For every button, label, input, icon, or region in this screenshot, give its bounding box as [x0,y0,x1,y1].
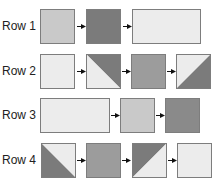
arrow-icon [167,69,176,74]
arrow-icon [156,113,165,118]
arrow-icon [122,69,131,74]
row-4-label: Row 4 [2,153,36,167]
row-1-block-2-square [86,9,121,44]
row-2-block-1-square [40,54,75,89]
arrow-icon [77,24,86,29]
row-4-block-4-square [177,143,212,178]
row-1-block-1-square [40,9,75,44]
arrow-icon [77,158,86,163]
row-4-block-2-square [86,143,121,178]
arrow-icon [168,158,177,163]
row-3-block-3-square [165,98,200,133]
row-2-label: Row 2 [2,64,36,78]
row-1-label: Row 1 [2,19,36,33]
arrow-icon [123,24,132,29]
row-3-label: Row 3 [2,108,36,122]
row-3-block-2-square [120,98,155,133]
row-4-block-3-half-square-triangle [132,143,167,178]
row-2-block-2-half-square-triangle [86,54,121,89]
arrow-icon [111,113,120,118]
row-1-block-3-rectangle [132,9,201,44]
arrow-icon [77,69,86,74]
row-3-block-1-rectangle [40,98,110,133]
arrow-icon [122,158,131,163]
row-4-block-1-half-square-triangle [41,143,76,178]
row-2-block-3-square [131,54,166,89]
row-2-block-4-half-square-triangle [176,54,211,89]
